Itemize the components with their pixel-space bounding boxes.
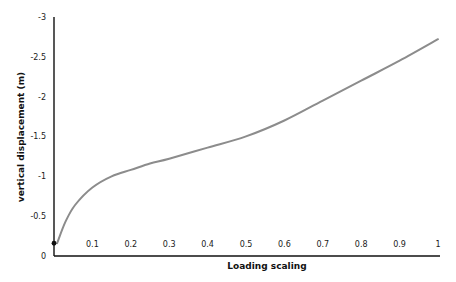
y-tick-label: -2.5 [30,53,46,62]
x-tick-label: 0.7 [316,240,329,249]
x-tick-label: 0.1 [86,240,99,249]
x-tick-label: 1 [435,240,440,249]
x-tick-label: 0.4 [201,240,214,249]
y-axis-ticks: 0-0.5-1-1.5-2-2.5-3 [30,13,46,261]
x-axis-ticks: 0.10.20.30.40.50.60.70.80.91 [86,240,441,249]
y-tick-label: -2 [38,93,46,102]
x-tick-label: 0.5 [240,240,253,249]
x-tick-label: 0.8 [355,240,368,249]
x-tick-label: 0.2 [124,240,137,249]
y-axis-title: vertical displacement (m) [16,72,26,202]
y-tick-label: 0 [41,252,46,261]
x-tick-label: 0.9 [393,240,406,249]
y-tick-label: -0.5 [30,212,46,221]
x-tick-label: 0.3 [163,240,176,249]
y-tick-label: -1.5 [30,132,46,141]
x-tick-label: 0.6 [278,240,291,249]
y-tick-label: -3 [38,13,46,22]
displacement-chart: 0-0.5-1-1.5-2-2.5-3 0.10.20.30.40.50.60.… [0,0,456,282]
data-line [57,39,438,243]
x-axis-title: Loading scaling [227,261,306,271]
y-tick-label: -1 [38,172,46,181]
